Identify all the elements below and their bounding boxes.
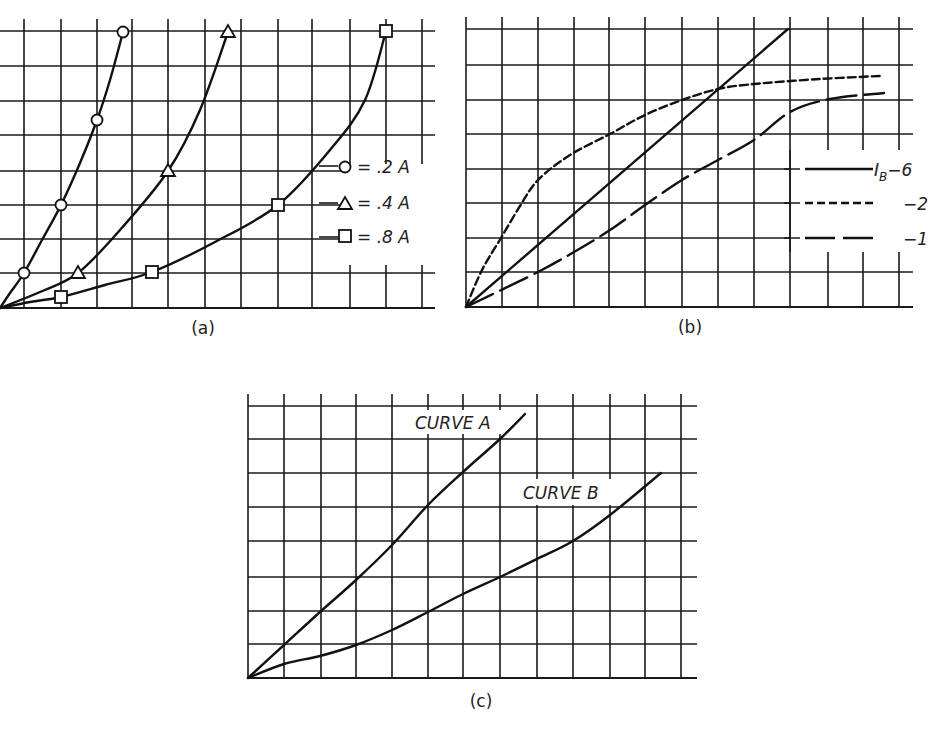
chart-panel-a: = .2 A = .4 A = .8 A (a) xyxy=(0,19,435,338)
legend-b-item-2: −1 xyxy=(903,229,928,249)
square-marker-icon xyxy=(272,199,284,211)
chart-panel-c: CURVE A CURVE B (c) xyxy=(248,394,697,711)
circle-marker-icon xyxy=(19,268,30,279)
curve-b-label: CURVE B xyxy=(523,483,599,503)
series-line-a-2 xyxy=(0,31,386,308)
series-line-c-0 xyxy=(248,414,525,678)
legend-a-item-0: = .2 A xyxy=(357,157,410,177)
legend-b: IB−6 −2 −1 xyxy=(784,150,938,252)
figure: = .2 A = .4 A = .8 A (a) IB−6 −2 −1 (b) xyxy=(0,0,938,738)
grid-c xyxy=(248,394,697,678)
curves-c xyxy=(248,414,661,678)
legend-a-item-1: = .4 A xyxy=(357,193,410,213)
legend-a-background xyxy=(341,164,435,265)
circle-marker-icon xyxy=(56,200,67,211)
square-marker-icon xyxy=(380,25,392,37)
circle-marker-icon xyxy=(118,27,129,38)
legend-b-item-1: −2 xyxy=(903,194,928,214)
square-marker-icon xyxy=(55,291,67,303)
series-line-a-1 xyxy=(0,32,228,308)
series-line-b-0 xyxy=(466,29,788,307)
chart-panel-b: IB−6 −2 −1 (b) xyxy=(466,17,938,337)
caption-a: (a) xyxy=(191,318,215,338)
curve-a-label: CURVE A xyxy=(415,413,491,433)
legend-circle-icon xyxy=(340,162,351,173)
circle-marker-icon xyxy=(92,115,103,126)
caption-b: (b) xyxy=(678,317,702,337)
triangle-marker-icon xyxy=(161,164,175,176)
legend-a: = .2 A = .4 A = .8 A xyxy=(319,157,435,265)
legend-square-icon xyxy=(339,230,351,242)
curves-a xyxy=(0,31,386,308)
caption-c: (c) xyxy=(470,691,493,711)
square-marker-icon xyxy=(146,266,158,278)
legend-a-item-2: = .8 A xyxy=(357,227,410,247)
